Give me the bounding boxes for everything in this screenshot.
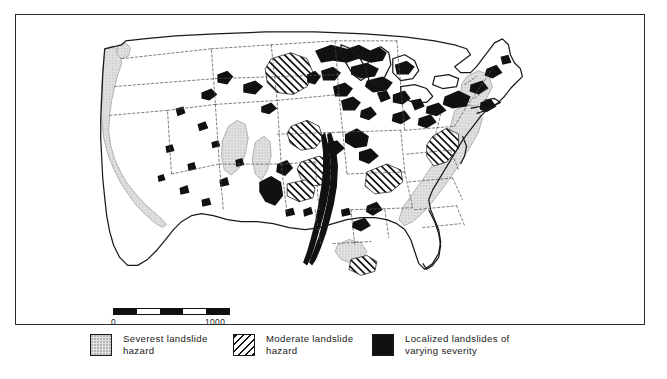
severest-hazard-swatch-icon xyxy=(90,334,112,356)
map-frame: 0 1000 km xyxy=(15,14,645,325)
scale-label-max: 1000 km xyxy=(205,317,239,325)
scale-segment xyxy=(183,309,206,314)
legend-label-localized: Localized landslides of varying severity xyxy=(405,333,510,356)
scale-bar-segments xyxy=(113,308,230,315)
scale-segment xyxy=(160,309,183,314)
scale-segment xyxy=(114,309,137,314)
scale-label-min: 0 xyxy=(111,317,116,325)
localized-hazard-swatch-icon xyxy=(372,334,394,356)
scale-segment xyxy=(137,309,160,314)
legend-item-moderate: Moderate landslide hazard xyxy=(233,333,353,356)
landslide-hazard-figure: 0 1000 km Severest landslide hazard Mode… xyxy=(0,0,667,379)
legend-item-localized: Localized landslides of varying severity xyxy=(372,333,510,356)
moderate-hazard-swatch-icon xyxy=(233,334,255,356)
legend-label-severest: Severest landslide hazard xyxy=(123,333,208,356)
map-legend: Severest landslide hazard Moderate lands… xyxy=(0,330,667,370)
scale-segment xyxy=(206,309,229,314)
legend-item-severest: Severest landslide hazard xyxy=(90,333,208,356)
map-scale-bar: 0 1000 km xyxy=(113,308,239,325)
legend-label-moderate: Moderate landslide hazard xyxy=(266,333,353,356)
united-states-landslide-hazard-map xyxy=(16,15,644,324)
